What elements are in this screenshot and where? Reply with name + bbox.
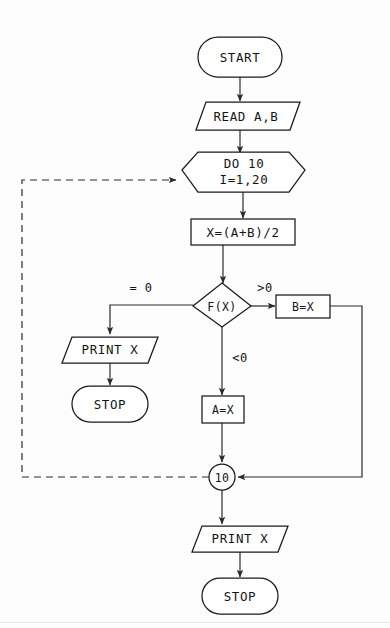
assignb-label: B=X xyxy=(292,300,314,314)
edge-decision-equalzero xyxy=(110,305,193,334)
printbottom-label: PRINT X xyxy=(212,531,269,546)
connector10-label: 10 xyxy=(215,471,230,485)
node-connector-10[interactable]: 10 xyxy=(209,464,235,490)
node-assign-b[interactable]: B=X xyxy=(276,295,330,318)
node-assign-x[interactable]: X=(A+B)/2 xyxy=(191,219,295,245)
node-print-left[interactable]: PRINT X xyxy=(62,337,158,363)
node-read[interactable]: READ A,B xyxy=(196,102,300,130)
edge-label-equal-zero: = 0 xyxy=(129,281,152,295)
node-do-loop[interactable]: DO 10 I=1,20 xyxy=(182,152,305,192)
read-label: READ A,B xyxy=(213,109,278,124)
assigna-label: A=X xyxy=(212,403,234,417)
edge-label-greater-zero: >0 xyxy=(257,281,272,295)
assignx-label: X=(A+B)/2 xyxy=(206,225,279,240)
edge-connector10-loopback-doloop xyxy=(22,180,209,477)
doloop-label-line1: DO 10 xyxy=(224,156,265,171)
edge-label-less-zero: <0 xyxy=(232,351,247,365)
node-stop-left[interactable]: STOP xyxy=(72,386,148,422)
stopleft-label: STOP xyxy=(94,397,127,412)
stopbottom-label: STOP xyxy=(224,589,257,604)
node-print-bottom[interactable]: PRINT X xyxy=(192,526,288,552)
node-decision-fx[interactable]: F(X) xyxy=(193,283,251,327)
node-stop-bottom[interactable]: STOP xyxy=(202,578,278,614)
start-label: START xyxy=(220,50,261,65)
node-assign-a[interactable]: A=X xyxy=(202,396,244,423)
decision-label: F(X) xyxy=(207,300,236,314)
doloop-label-line2: I=1,20 xyxy=(220,172,269,187)
printleft-label: PRINT X xyxy=(82,342,139,357)
flowchart-diagram: START READ A,B DO 10 I=1,20 X=(A+B)/2 F(… xyxy=(0,0,390,628)
edge-assignb-to-connector10 xyxy=(238,306,362,477)
node-start[interactable]: START xyxy=(198,37,282,77)
